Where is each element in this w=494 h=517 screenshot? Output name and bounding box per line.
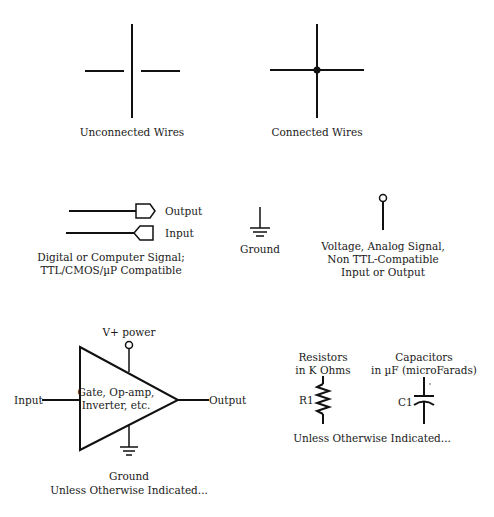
resistor-title-line2: in K Ohms <box>295 364 350 377</box>
amplifier-body-line1: Gate, Op-amp, <box>78 386 155 399</box>
resistor-ref-label: R1 <box>299 394 314 407</box>
analog-caption-line1: Voltage, Analog Signal, <box>321 240 445 253</box>
resistor-title-line1: Resistors <box>298 351 347 364</box>
amplifier-output-label: Output <box>209 394 246 407</box>
capacitor-title-line1: Capacitors <box>395 351 452 364</box>
components-note: Unless Otherwise Indicated... <box>293 432 451 445</box>
ground-symbol <box>250 207 270 236</box>
ground-label: Ground <box>240 243 280 256</box>
connected-wires-label: Connected Wires <box>271 126 362 139</box>
amplifier-body-line2: Inverter, etc. <box>82 399 151 412</box>
digital-input-symbol <box>66 226 153 240</box>
connected-wires-symbol <box>270 24 364 118</box>
analog-caption-line2: Non TTL-Compatible <box>327 253 439 266</box>
schematic-legend: Unconnected Wires Connected Wires Output… <box>0 0 494 517</box>
amplifier-ground-label: Ground <box>109 470 149 483</box>
analog-terminal-symbol <box>380 195 387 231</box>
unconnected-wires-label: Unconnected Wires <box>80 126 185 139</box>
digital-output-symbol <box>69 204 155 218</box>
analog-caption-line3: Input or Output <box>341 266 425 279</box>
amplifier-power-label: V+ power <box>103 326 156 339</box>
amplifier-note: Unless Otherwise Indicated... <box>50 484 208 497</box>
digital-caption-line2: TTL/CMOS/µP Compatible <box>40 264 181 277</box>
capacitor-symbol <box>414 377 434 424</box>
digital-input-label: Input <box>165 227 194 240</box>
resistor-symbol <box>317 376 329 424</box>
amplifier-input-label: Input <box>14 394 43 407</box>
unconnected-wires-symbol <box>85 24 180 118</box>
capacitor-ref-label: C1 <box>398 396 413 409</box>
digital-caption-line1: Digital or Computer Signal; <box>37 251 185 264</box>
capacitor-title-line2: in µF (microFarads) <box>371 364 477 377</box>
digital-output-label: Output <box>165 205 202 218</box>
